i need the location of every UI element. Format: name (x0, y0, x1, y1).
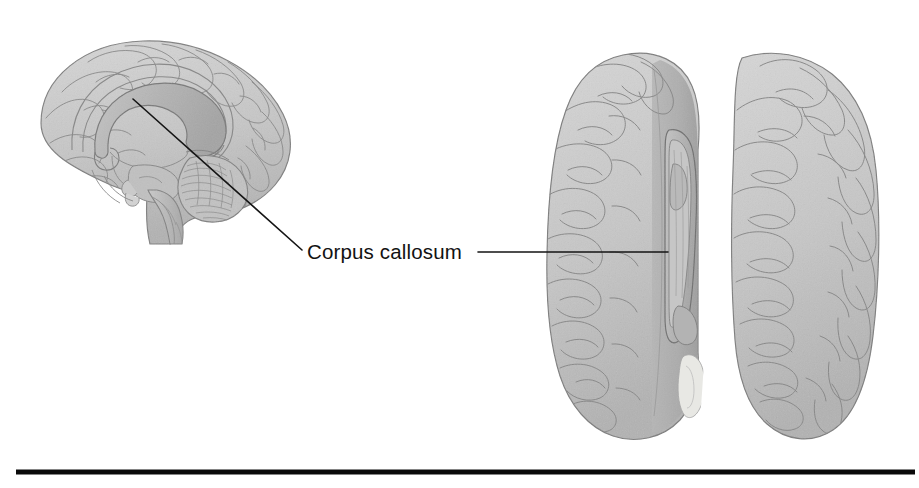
brain-illustration-svg: Corpus callosum (0, 0, 919, 488)
anatomy-figure: Corpus callosum (0, 0, 919, 488)
corpus-callosum-label: Corpus callosum (307, 240, 462, 263)
right-hemisphere (732, 53, 879, 439)
panel-superior-brain (546, 53, 879, 440)
